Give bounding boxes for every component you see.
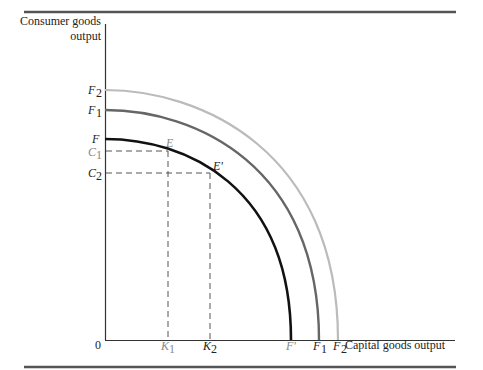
origin-label: 0 bbox=[95, 338, 101, 352]
x-tick-f2: F 2 bbox=[332, 339, 347, 356]
svg-text:F: F bbox=[312, 339, 321, 353]
svg-text:2: 2 bbox=[341, 342, 347, 356]
svg-text:1: 1 bbox=[96, 106, 102, 120]
y-tick-c1: C 1 bbox=[88, 145, 102, 162]
svg-text:1: 1 bbox=[96, 148, 102, 162]
ppf-curve-f2 bbox=[105, 90, 338, 340]
y-tick-f2: F 2 bbox=[87, 83, 102, 100]
point-e-label: E bbox=[165, 136, 174, 150]
svg-text:F: F bbox=[91, 132, 100, 146]
y-axis-label-line1: Consumer goods bbox=[20, 14, 101, 28]
svg-text:2: 2 bbox=[96, 86, 102, 100]
x-axis-label: Capital goods output bbox=[345, 338, 446, 352]
y-tick-c2: C 2 bbox=[88, 166, 102, 183]
svg-text:1: 1 bbox=[169, 342, 175, 356]
svg-text:F': F' bbox=[285, 339, 296, 353]
svg-text:1: 1 bbox=[321, 342, 327, 356]
svg-text:F: F bbox=[332, 339, 341, 353]
ppf-diagram: Consumer goods output Capital goods outp… bbox=[0, 0, 483, 370]
svg-text:F: F bbox=[87, 103, 96, 117]
point-e-prime-label: E' bbox=[212, 159, 223, 173]
y-axis-label-line2: output bbox=[70, 29, 101, 43]
y-tick-f1: F 1 bbox=[87, 103, 102, 120]
x-tick-f1: F 1 bbox=[312, 339, 327, 356]
x-tick-k1: K 1 bbox=[160, 339, 175, 356]
y-tick-f: F bbox=[91, 132, 100, 146]
svg-text:2: 2 bbox=[96, 169, 102, 183]
svg-text:2: 2 bbox=[211, 342, 217, 356]
svg-text:F: F bbox=[87, 83, 96, 97]
x-tick-k2: K 2 bbox=[202, 339, 217, 356]
ppf-curve-f1 bbox=[105, 110, 319, 340]
ppf-curve-f bbox=[105, 139, 291, 340]
x-tick-f-prime: F' bbox=[285, 339, 296, 353]
